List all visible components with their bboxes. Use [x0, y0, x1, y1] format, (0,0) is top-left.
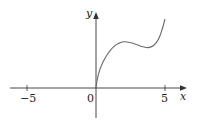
function-curve	[96, 19, 165, 88]
y-axis-label: y	[85, 7, 93, 20]
y-axis-arrow-icon	[93, 12, 99, 19]
function-graph: y x −5 0 5	[0, 0, 197, 125]
tick-label-neg5: −5	[20, 92, 36, 105]
x-axis-label: x	[180, 90, 187, 103]
tick-label-0: 0	[87, 92, 94, 105]
tick-label-5: 5	[161, 92, 168, 105]
